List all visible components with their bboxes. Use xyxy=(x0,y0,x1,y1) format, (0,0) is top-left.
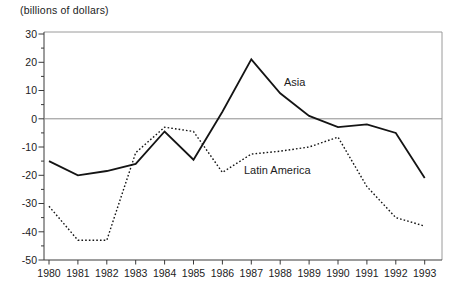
plot-frame-top-right xyxy=(44,32,442,260)
x-tick-label: 1980 xyxy=(37,267,61,279)
y-tick-label: -10 xyxy=(22,141,37,153)
x-tick-label: 1991 xyxy=(355,267,379,279)
y-tick-label: -40 xyxy=(22,226,37,238)
series-label-latin-america: Latin America xyxy=(244,164,312,176)
line-chart-figure: (billions of dollars) 3020100-10-20-30-4… xyxy=(0,0,460,298)
y-tick-label: -30 xyxy=(22,197,37,209)
x-tick-label: 1990 xyxy=(326,267,350,279)
x-tick-label: 1993 xyxy=(413,267,437,279)
x-tick-label: 1983 xyxy=(124,267,148,279)
series-label-asia: Asia xyxy=(284,76,306,88)
x-tick-label: 1988 xyxy=(269,267,293,279)
x-tick-label: 1992 xyxy=(384,267,408,279)
x-tick-label: 1984 xyxy=(153,267,177,279)
x-tick-label: 1985 xyxy=(182,267,206,279)
x-tick-label: 1987 xyxy=(240,267,264,279)
y-tick-label: 10 xyxy=(25,84,37,96)
x-tick-label: 1986 xyxy=(211,267,235,279)
y-tick-label: 20 xyxy=(25,56,37,68)
chart-canvas: 3020100-10-20-30-40-50198019811982198319… xyxy=(0,0,460,298)
y-tick-label: 30 xyxy=(25,28,37,40)
y-tick-label: -50 xyxy=(22,254,37,266)
plot-axis-left-bottom xyxy=(44,32,442,260)
x-tick-label: 1982 xyxy=(95,267,119,279)
x-tick-label: 1989 xyxy=(297,267,321,279)
latin-america-series-line xyxy=(49,127,425,240)
y-tick-label: -20 xyxy=(22,169,37,181)
y-tick-label: 0 xyxy=(31,113,37,125)
x-tick-label: 1981 xyxy=(66,267,90,279)
